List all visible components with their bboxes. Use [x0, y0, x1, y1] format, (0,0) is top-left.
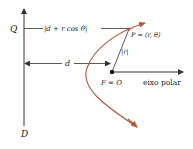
label-q: Q [10, 24, 18, 34]
label-focus: F = O [100, 79, 122, 87]
focus-point [110, 70, 114, 74]
polar-conic-diagram: Q D |d + r cos θ| d P = (r, θ) |r| F = O… [0, 0, 193, 149]
label-point-p: P = (r, θ) [130, 31, 161, 39]
label-polar-axis: eixo polar [143, 78, 181, 87]
label-r: |r| [121, 48, 129, 56]
parabola-curve-lower-arrow [128, 119, 137, 127]
label-distance-pd: |d + r cos θ| [44, 25, 87, 33]
label-d: d [65, 59, 70, 68]
label-d-directrix: D [20, 129, 28, 139]
